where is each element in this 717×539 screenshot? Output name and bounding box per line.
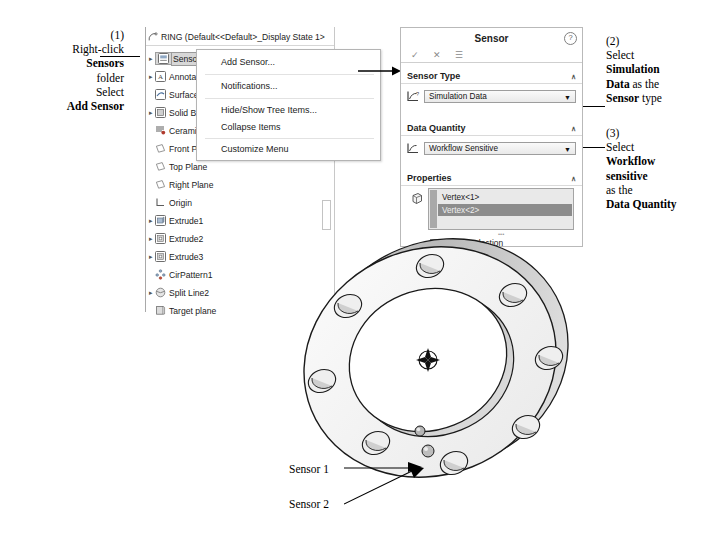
step1-line-select: Select bbox=[96, 86, 124, 98]
sensor-type-icon: ? bbox=[406, 90, 420, 103]
section-title-properties: Properties bbox=[407, 173, 452, 183]
section-header-sensor-type[interactable]: Sensor Type ∧ bbox=[401, 69, 582, 84]
tree-item-label: CirPattern1 bbox=[169, 270, 214, 280]
properties-selection-listbox[interactable]: Vertex<1> Vertex<2> bbox=[428, 188, 574, 230]
extrude-cut-icon bbox=[155, 251, 166, 262]
tree-item-label: Extrude3 bbox=[169, 252, 205, 262]
step3-line-select: Select bbox=[606, 140, 716, 154]
sensor-panel-title: Sensor bbox=[401, 28, 582, 48]
annotation-step-1: (1) Right-click Sensors folder Select Ad… bbox=[4, 28, 124, 113]
cancel-x-icon[interactable]: ✕ bbox=[433, 51, 441, 60]
sensor-2-callout-label: Sensor 2 bbox=[289, 497, 329, 511]
tree-item-label: Origin bbox=[169, 198, 194, 208]
annotation-step-2: (2) Select Simulation Data as the Sensor… bbox=[606, 34, 716, 105]
expand-chevron-icon[interactable]: ▸ bbox=[146, 234, 155, 243]
step2-line-type: type bbox=[639, 92, 662, 104]
part-document-icon bbox=[148, 32, 158, 42]
context-menu-item-add-sensor[interactable]: Add Sensor... bbox=[197, 54, 380, 70]
step2-line-select: Select bbox=[606, 48, 716, 62]
chevron-collapse-icon[interactable]: ∧ bbox=[571, 125, 576, 133]
step1-line-folder: folder bbox=[97, 72, 124, 84]
tree-item-label: Top Plane bbox=[169, 162, 209, 172]
step1-line-right-click: Right-click bbox=[72, 43, 124, 55]
listbox-resize-grip[interactable]: ••• bbox=[498, 231, 504, 237]
step2-line-sensor: Sensor bbox=[606, 92, 639, 104]
chevron-down-icon[interactable]: ▼ bbox=[562, 93, 573, 102]
selection-list-item[interactable]: Vertex<2> bbox=[438, 204, 572, 216]
extrude-cut-icon bbox=[155, 233, 166, 244]
step3-line-data-quantity: Data Quantity bbox=[606, 198, 677, 210]
tree-item-right-plane[interactable]: Right Plane bbox=[146, 176, 334, 193]
plane-icon bbox=[155, 161, 166, 172]
surface-bodies-icon bbox=[155, 89, 166, 100]
tree-item-label: Right Plane bbox=[169, 180, 215, 190]
data-quantity-icon bbox=[406, 142, 420, 155]
tree-scroll-nub[interactable] bbox=[322, 200, 331, 230]
data-quantity-combobox[interactable]: Workflow Sensitive ▼ bbox=[424, 142, 576, 155]
section-header-properties[interactable]: Properties ∧ bbox=[401, 171, 582, 186]
expand-chevron-icon[interactable]: ▸ bbox=[146, 252, 155, 261]
expand-chevron-icon[interactable]: ▸ bbox=[146, 108, 155, 117]
step3-line-sensitive: sensitive bbox=[606, 170, 648, 182]
annotations-icon: A bbox=[155, 71, 166, 82]
annotation-step-3: (3) Select Workflow sensitive as the Dat… bbox=[606, 126, 716, 211]
leader-line-step2 bbox=[583, 106, 605, 107]
step2-line-as-the: as the bbox=[630, 78, 659, 90]
detailed-preview-icon[interactable]: ☰ bbox=[455, 51, 463, 60]
context-menu-item-hide-show-tree-items[interactable]: Hide/Show Tree Items... bbox=[197, 102, 380, 118]
menu-separator bbox=[205, 98, 374, 99]
feature-tree-title-text: RING (Default<<Default>_Display State 1> bbox=[161, 32, 325, 42]
selection-list-item[interactable]: Vertex<1> bbox=[438, 191, 572, 203]
selection-box-icon bbox=[410, 192, 424, 206]
arrow-add-sensor-to-panel bbox=[358, 64, 402, 78]
sensors-folder-icon bbox=[158, 53, 169, 64]
data-quantity-value: Workflow Sensitive bbox=[429, 144, 498, 153]
chevron-down-icon[interactable]: ▼ bbox=[562, 145, 573, 154]
tree-item-label: Split Line2 bbox=[169, 288, 211, 298]
sensors-context-menu: Add Sensor... Notifications... Hide/Show… bbox=[196, 49, 381, 161]
menu-separator bbox=[205, 74, 374, 75]
tree-item-label: Extrude1 bbox=[169, 216, 205, 226]
plane-icon bbox=[155, 143, 166, 154]
selection-list-item[interactable] bbox=[438, 217, 572, 229]
chevron-collapse-icon[interactable]: ∧ bbox=[571, 73, 576, 81]
context-menu-item-notifications[interactable]: Notifications... bbox=[197, 78, 380, 94]
leader-arrow-sensor-2 bbox=[344, 462, 436, 510]
section-title-sensor-type: Sensor Type bbox=[407, 71, 460, 81]
svg-text:?: ? bbox=[416, 90, 419, 96]
section-title-data-quantity: Data Quantity bbox=[407, 123, 466, 133]
chevron-collapse-icon[interactable]: ∧ bbox=[571, 175, 576, 183]
solid-bodies-icon bbox=[155, 107, 166, 118]
sensor-1-callout-label: Sensor 1 bbox=[289, 462, 329, 476]
ring-flange-3d-model bbox=[268, 238, 628, 498]
expand-chevron-icon[interactable]: ▸ bbox=[146, 72, 155, 81]
sensor-panel-actions: ✓ ✕ ☰ bbox=[401, 48, 582, 63]
step2-number: (2) bbox=[606, 34, 716, 48]
tree-item-extrude1[interactable]: ▸ Extrude1 bbox=[146, 212, 334, 229]
extrude-boss-icon bbox=[155, 215, 166, 226]
sensor-1-vertex-marker bbox=[415, 426, 425, 436]
step3-number: (3) bbox=[606, 126, 716, 140]
expand-chevron-icon[interactable]: ▸ bbox=[146, 54, 155, 63]
leader-line-step3 bbox=[583, 147, 605, 148]
step2-line-simulation: Simulation bbox=[606, 63, 660, 75]
step1-line-sensors: Sensors bbox=[86, 57, 124, 69]
listbox-gutter bbox=[430, 190, 437, 228]
tree-item-origin[interactable]: Origin bbox=[146, 194, 334, 211]
context-menu-item-collapse-items[interactable]: Collapse Items bbox=[197, 119, 380, 135]
context-menu-item-customize-menu[interactable]: Customize Menu bbox=[197, 141, 380, 157]
expand-chevron-icon[interactable]: ▸ bbox=[146, 288, 155, 297]
expand-chevron-icon[interactable]: ▸ bbox=[146, 216, 155, 225]
tree-item-label: Target plane bbox=[169, 306, 218, 316]
section-header-data-quantity[interactable]: Data Quantity ∧ bbox=[401, 121, 582, 136]
plane-feature-icon bbox=[155, 305, 166, 316]
sensor-type-combobox[interactable]: Simulation Data ▼ bbox=[424, 90, 576, 103]
circular-pattern-icon bbox=[155, 269, 166, 280]
help-icon[interactable]: ? bbox=[564, 32, 577, 45]
material-icon bbox=[155, 125, 166, 136]
sensor-property-manager: Sensor ? ✓ ✕ ☰ Sensor Type ∧ ? Simulatio… bbox=[400, 27, 583, 247]
sensor-type-row: ? Simulation Data ▼ bbox=[401, 86, 582, 106]
origin-icon bbox=[155, 197, 166, 208]
plane-icon bbox=[155, 179, 166, 190]
accept-ok-check-icon[interactable]: ✓ bbox=[411, 51, 419, 60]
